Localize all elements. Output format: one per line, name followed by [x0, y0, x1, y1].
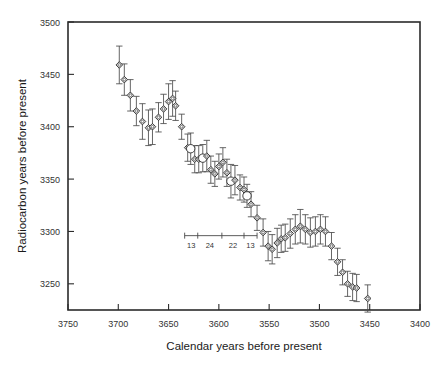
data-point-center [304, 228, 307, 231]
y-tick-label: 3300 [40, 227, 60, 237]
data-point-center [118, 64, 121, 67]
data-point-center [151, 125, 154, 128]
data-point-circle [186, 145, 194, 153]
x-tick-label: 3450 [360, 319, 380, 329]
y-tick-label: 3350 [40, 175, 60, 185]
data-point-center [239, 186, 242, 189]
x-tick-label: 3500 [309, 319, 329, 329]
data-point-center [366, 297, 369, 300]
x-tick-label: 3600 [209, 319, 229, 329]
data-point-center [267, 245, 270, 248]
x-axis-title: Calendar years before present [166, 340, 322, 352]
data-point-circle [243, 192, 251, 200]
inset-segment-label: 22 [229, 241, 237, 250]
data-point-center [123, 78, 126, 81]
y-tick-label: 3450 [40, 70, 60, 80]
data-point-center [135, 110, 138, 113]
chart-background [0, 0, 446, 368]
data-point-center [206, 155, 209, 158]
data-point-center [180, 125, 183, 128]
data-point-center [330, 245, 333, 248]
data-point-center [355, 287, 358, 290]
y-tick-label: 3250 [40, 279, 60, 289]
data-point-center [341, 271, 344, 274]
data-point-center [243, 188, 246, 191]
inset-segment-label: 13 [187, 241, 195, 250]
x-tick-label: 3700 [108, 319, 128, 329]
data-point-center [129, 94, 132, 97]
data-point-center [299, 225, 302, 228]
data-point-center [314, 230, 317, 233]
data-point-center [271, 248, 274, 251]
data-point-center [222, 161, 225, 164]
data-point-center [218, 165, 221, 168]
inset-segment-label: 13 [246, 241, 254, 250]
x-tick-label: 3750 [58, 319, 78, 329]
data-point-center [210, 168, 213, 171]
data-point-center [336, 261, 339, 264]
y-tick-label: 3400 [40, 122, 60, 132]
data-point-center [214, 173, 217, 176]
data-point-center [226, 172, 229, 175]
data-point-center [294, 228, 297, 231]
radiocarbon-calibration-chart: 37503700365036003550350034503400 3250330… [0, 0, 446, 368]
data-point-center [262, 231, 265, 234]
data-point-center [289, 232, 292, 235]
x-tick-label: 3400 [410, 319, 430, 329]
inset-segment-label: 24 [206, 241, 214, 250]
data-point-center [324, 230, 327, 233]
data-point-center [346, 283, 349, 286]
data-point-center [319, 228, 322, 231]
data-point-center [141, 120, 144, 123]
data-point-center [174, 105, 177, 108]
data-point-center [162, 108, 165, 111]
chart-canvas: 37503700365036003550350034503400 3250330… [0, 0, 446, 368]
data-point-center [284, 236, 287, 239]
x-tick-label: 3550 [259, 319, 279, 329]
data-point-center [171, 97, 174, 100]
data-point-center [250, 203, 253, 206]
y-tick-label: 3500 [40, 18, 60, 28]
data-point-center [157, 116, 160, 119]
data-point-center [167, 100, 170, 103]
data-point-center [234, 179, 237, 182]
data-point-center [276, 242, 279, 245]
y-axis-title: Radiocarbon years before present [16, 78, 28, 253]
data-point-center [309, 231, 312, 234]
data-point-center [256, 217, 259, 220]
x-tick-label: 3650 [159, 319, 179, 329]
